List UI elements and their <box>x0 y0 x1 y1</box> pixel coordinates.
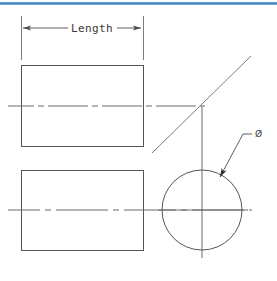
diameter-callout-group: Ø <box>220 129 262 177</box>
front-view-group <box>8 65 205 146</box>
diameter-symbol: Ø <box>255 129 262 139</box>
leader-slant-line <box>220 134 243 177</box>
drawing-canvas: Length Ø <box>0 0 277 281</box>
length-dimension-group: Length <box>21 16 143 60</box>
technical-drawing-svg: Length Ø <box>0 0 277 281</box>
side-view-group <box>158 170 248 250</box>
projection-group <box>152 56 251 258</box>
dimension-label: Length <box>71 22 113 35</box>
